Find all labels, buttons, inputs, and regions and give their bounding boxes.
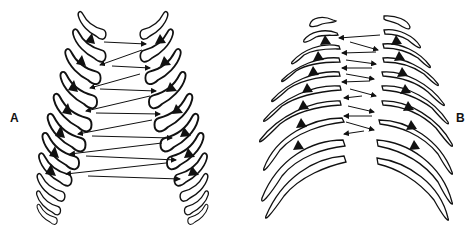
diagram-a [37,12,209,225]
diagram-b-right-ribs [377,16,452,220]
diagram-a-left-ribs [37,12,106,225]
diagram-b-arrows [339,35,380,134]
diagram-b [260,16,453,220]
diagram-b-left-ribs [260,17,346,218]
diagram-a-right-ribs [140,12,208,225]
rib-diagram [0,0,473,235]
